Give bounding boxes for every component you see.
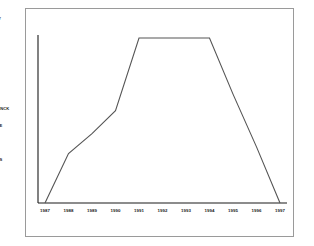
x-axis-tick-label: 1992 (157, 208, 168, 213)
x-axis-tick-label: 1988 (63, 208, 74, 213)
chart-axes (38, 35, 287, 203)
x-axis-tick-label: 1991 (134, 208, 145, 213)
x-axis-tick-labels: 1987198819891990199119921993199419951996… (40, 208, 286, 213)
x-axis-tick-label: 1993 (181, 208, 192, 213)
x-axis-tick-label: 1989 (87, 208, 98, 213)
chart-svg: 1987198819891990199119921993199419951996… (25, 8, 294, 237)
x-axis-tick-label: 1994 (204, 208, 215, 213)
data-series-line (45, 38, 280, 203)
page-root: AULARTNEYLTONNRHERHHARDSJONESLBERTMPERDI… (0, 0, 314, 246)
x-axis-tick-label: 1997 (275, 208, 286, 213)
x-axis-tick-label: 1987 (40, 208, 51, 213)
x-axis-tick-label: 1990 (110, 208, 121, 213)
x-axis-tick-label: 1995 (228, 208, 239, 213)
x-axis-tick-label: 1996 (251, 208, 262, 213)
line-chart: 1987198819891990199119921993199419951996… (25, 8, 294, 237)
